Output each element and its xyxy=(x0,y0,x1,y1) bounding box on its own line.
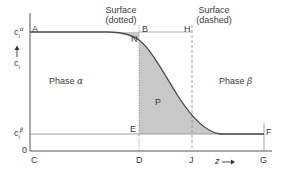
surface-dotted-line2: (dotted) xyxy=(101,15,141,25)
y-tick-c-beta: ciβ xyxy=(14,128,23,138)
point-a-label: A xyxy=(32,24,38,34)
surface-dotted-title: Surface (dotted) xyxy=(101,5,141,25)
up-arrow-icon xyxy=(15,46,20,51)
y-tick-c-alpha: ciα xyxy=(14,27,24,37)
surface-dashed-title: Surface (dashed) xyxy=(194,5,234,25)
y-zero-label: 0 xyxy=(22,145,27,155)
phase-beta-label: Phase β xyxy=(219,76,252,86)
point-c-label: C xyxy=(31,155,38,165)
point-n-label: N xyxy=(131,34,138,44)
x-axis-label: z xyxy=(215,156,220,166)
surface-dashed-line2: (dashed) xyxy=(194,15,234,25)
point-j-label: J xyxy=(189,155,194,165)
right-arrow-icon xyxy=(231,160,235,165)
surface-dashed-line1: Surface xyxy=(194,5,234,15)
y-axis-label: ci xyxy=(14,58,20,68)
point-h-label: H xyxy=(184,24,191,34)
point-f-label: F xyxy=(266,127,272,137)
point-e-label: E xyxy=(130,124,136,134)
phase-alpha-label: Phase α xyxy=(49,76,83,86)
point-g-label: G xyxy=(260,155,267,165)
surface-dotted-line1: Surface xyxy=(101,5,141,15)
point-d-label: D xyxy=(136,155,143,165)
point-p-label: P xyxy=(155,97,161,107)
point-b-label: B xyxy=(142,24,148,34)
